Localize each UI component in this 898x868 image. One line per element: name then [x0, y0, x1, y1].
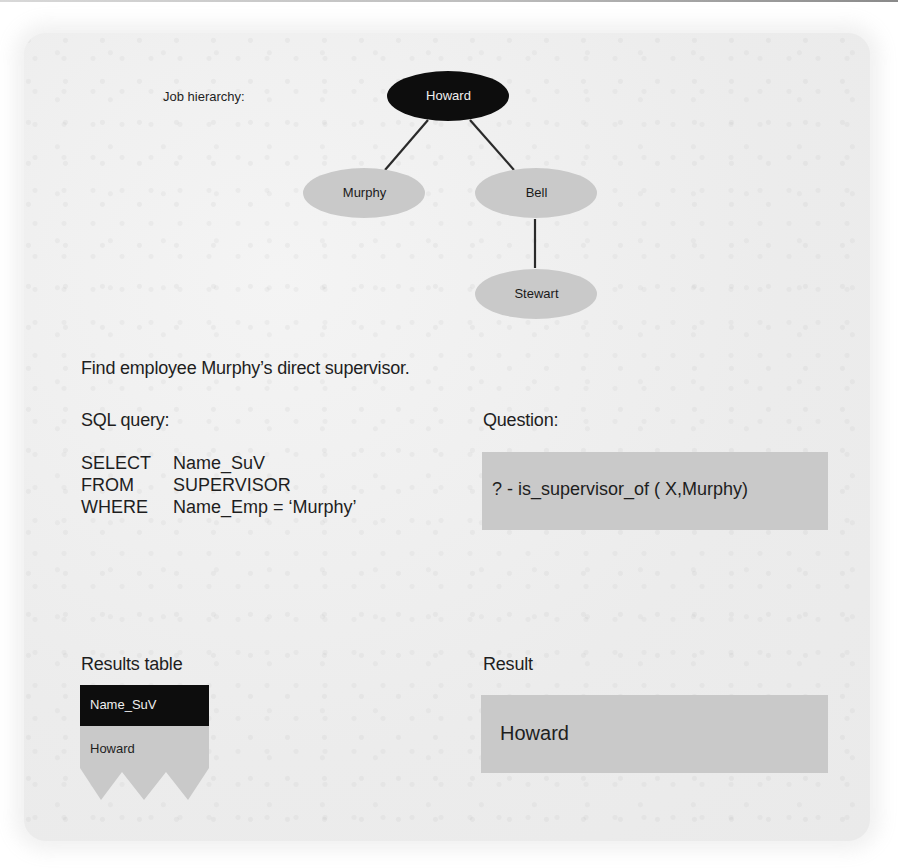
edge-howard-murphy [385, 120, 428, 170]
sql-value: Name_SuV [173, 452, 265, 474]
result-value: Howard [500, 722, 569, 745]
node-stewart: Stewart [475, 286, 598, 302]
node-howard: Howard [387, 88, 510, 104]
result-heading: Result [483, 654, 533, 675]
sql-value: SUPERVISOR [173, 474, 291, 496]
node-murphy: Murphy [303, 185, 426, 201]
question-heading: Question: [483, 410, 558, 431]
hierarchy-label: Job hierarchy: [163, 89, 245, 104]
results-table-heading: Results table [81, 654, 182, 675]
sql-value: Name_Emp = ‘Murphy’ [173, 496, 357, 518]
results-table-header: Name_SuV [80, 685, 209, 726]
sql-keyword: SELECT [81, 452, 151, 474]
sql-heading: SQL query: [81, 410, 169, 431]
sql-line-where: WHERE Name_Emp = ‘Murphy’ [81, 496, 381, 518]
question-query: ? - is_supervisor_of ( X,Murphy) [492, 479, 748, 500]
sql-line-select: SELECT Name_SuV [81, 452, 381, 474]
sql-keyword: FROM [81, 474, 134, 496]
results-table-cell: Howard [90, 741, 135, 756]
results-table-body-shape [80, 726, 209, 800]
edge-howard-bell [470, 120, 514, 170]
node-bell: Bell [475, 185, 598, 201]
sql-line-from: FROM SUPERVISOR [81, 474, 381, 496]
task-statement: Find employee Murphy’s direct supervisor… [81, 358, 410, 379]
results-table-column-header: Name_SuV [90, 697, 156, 712]
sql-keyword: WHERE [81, 496, 148, 518]
